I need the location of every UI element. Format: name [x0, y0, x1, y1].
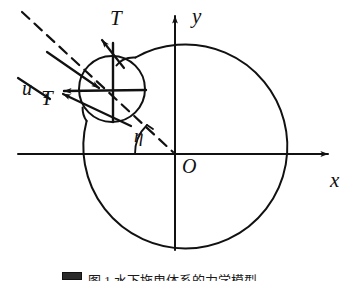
u-vector-upper: [47, 52, 99, 88]
label-angle-eta: η: [134, 126, 143, 145]
label-origin: O: [182, 156, 196, 176]
caption-marker-box: [62, 272, 82, 280]
label-tension-top: T: [110, 8, 122, 29]
label-tension-left: T: [41, 88, 53, 109]
label-axis-y: y: [192, 6, 201, 27]
label-velocity-u: u: [22, 78, 32, 98]
figure-caption: 图 1 水下拖曳体系的力学模型: [88, 270, 257, 281]
dashed-reference-line: [22, 12, 173, 152]
small-circle-horizontal-line: [64, 90, 146, 91]
figure-container: T u T η O y x 图 1 水下拖曳体系的力学模型: [0, 0, 360, 281]
T-left-diagonal-vector: [63, 94, 131, 126]
diagram-canvas: [0, 0, 360, 281]
label-axis-x: x: [330, 170, 339, 191]
